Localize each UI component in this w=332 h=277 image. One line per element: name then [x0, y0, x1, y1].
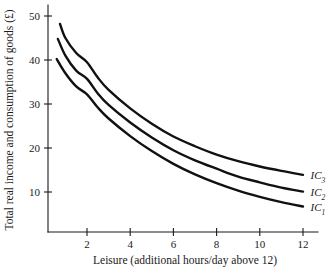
- ic2-label-subscript: 2: [322, 193, 326, 202]
- indifference-curve-chart: 1020304050 24681012 IC3IC2IC1 Leisure (a…: [0, 0, 332, 277]
- ic1-label-subscript: 1: [322, 208, 326, 217]
- x-tick-label: 12: [298, 238, 309, 250]
- ic1-label: IC1: [310, 201, 326, 218]
- curve-labels-group: IC3IC2IC1: [310, 169, 326, 217]
- x-tick-label: 10: [254, 238, 266, 250]
- y-tick-label: 50: [29, 10, 41, 22]
- x-tick-label: 8: [214, 238, 220, 250]
- chart-svg: 1020304050 24681012 IC3IC2IC1 Leisure (a…: [0, 0, 332, 277]
- x-tick-label: 4: [127, 238, 133, 250]
- axes-group: [48, 5, 318, 232]
- y-axis-title: Total real income and consumption of goo…: [3, 9, 16, 230]
- curve-ic3: [60, 24, 303, 175]
- x-tick-label: 2: [84, 238, 90, 250]
- ic3-label-subscript: 3: [321, 176, 326, 185]
- y-tick-label: 10: [29, 186, 41, 198]
- y-tick-label: 20: [29, 142, 41, 154]
- y-tick-label: 30: [29, 98, 41, 110]
- curves-group: [57, 24, 303, 207]
- x-axis-title: Leisure (additional hours/day above 12): [93, 254, 277, 267]
- x-axis-ticks: 24681012: [84, 228, 308, 250]
- x-tick-label: 6: [171, 238, 177, 250]
- y-tick-label: 40: [29, 54, 41, 66]
- ic3-label: IC3: [310, 169, 326, 186]
